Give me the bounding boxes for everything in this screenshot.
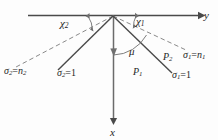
angle-mu-label: μ xyxy=(129,46,135,57)
ray-sigma2-1-value: 1 xyxy=(71,67,76,78)
angle-chi2-subscript: 2 xyxy=(65,21,69,30)
ray-sigma1-n1-label: σ1=n1 xyxy=(183,50,205,61)
ray-sigma2-n2-label: σ2=n2 xyxy=(4,66,26,77)
ray-sigma1-n1-line xyxy=(113,16,186,50)
point-p2-subscript: 2 xyxy=(169,55,172,62)
x-axis-arrowhead xyxy=(110,118,117,125)
angle-chi2-label: χ2 xyxy=(60,18,69,30)
angle-chi1-subscript: 1 xyxy=(141,19,145,28)
ray-sigma1-1-value: 1 xyxy=(186,69,191,80)
point-p2-label: P2 xyxy=(163,52,173,63)
refraction-ray-diagram: y x χ2 χ1 μ σ2=n2 σ2=1 σ1=n1 σ1=1 P1 P2 xyxy=(0,0,218,140)
point-p1-label: P1 xyxy=(133,67,143,78)
ray-sigma1-n1-value-sub: 1 xyxy=(202,53,205,60)
ray-sigma1-1-label: σ1=1 xyxy=(172,70,191,81)
angle-chi1-label: χ1 xyxy=(136,16,145,28)
ray-sigma2-n2-value-sub: 2 xyxy=(23,69,26,76)
y-axis-label: y xyxy=(204,10,209,21)
x-axis-label: x xyxy=(110,127,115,138)
point-p1-subscript: 1 xyxy=(139,70,142,77)
x-axis xyxy=(110,16,117,126)
chi2-axis-tick xyxy=(86,13,90,19)
ray-sigma2-1-label: σ2=1 xyxy=(57,68,76,79)
